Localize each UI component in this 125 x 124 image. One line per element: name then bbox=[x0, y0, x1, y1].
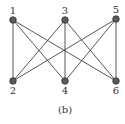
node-4 bbox=[62, 78, 69, 85]
node-3 bbox=[62, 17, 69, 24]
figure-caption: (b) bbox=[58, 104, 72, 115]
bipartite-graph-diagram: 135246 (b) bbox=[0, 0, 125, 124]
node-1 bbox=[10, 17, 17, 24]
node-label-6: 6 bbox=[113, 85, 119, 96]
edges-layer bbox=[13, 19, 116, 81]
node-label-1: 1 bbox=[10, 5, 16, 16]
node-5 bbox=[113, 16, 120, 23]
node-6 bbox=[113, 78, 120, 85]
node-2 bbox=[10, 78, 17, 85]
node-label-3: 3 bbox=[62, 5, 68, 16]
node-label-5: 5 bbox=[113, 4, 119, 15]
node-label-2: 2 bbox=[10, 85, 16, 96]
node-label-4: 4 bbox=[62, 85, 68, 96]
